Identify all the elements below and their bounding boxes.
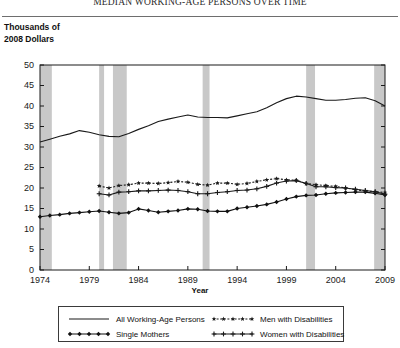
legend-item-men-with-disabilities: Men with Disabilities [211, 314, 332, 324]
y-tick-label: 20 [12, 184, 34, 193]
y-tick-label: 25 [12, 163, 34, 172]
legend-label: Men with Disabilities [260, 315, 332, 324]
x-axis-title: Year [0, 286, 400, 295]
x-tick-label: 1994 [217, 276, 257, 285]
legend-item-all-working-age-persons: All Working-Age Persons [67, 314, 205, 324]
y-tick-label: 10 [12, 225, 34, 234]
y-tick-label: 0 [12, 266, 34, 275]
x-tick-label: 1999 [266, 276, 306, 285]
axis-ticks [40, 65, 385, 270]
x-tick-label: 2009 [365, 276, 400, 285]
legend-swatch-star [211, 314, 255, 324]
legend-swatch-line [67, 314, 111, 324]
legend-swatch-plus [211, 329, 255, 339]
axes-frame [40, 65, 385, 270]
y-tick-label: 15 [12, 204, 34, 213]
legend-label: Single Mothers [116, 330, 169, 339]
x-tick-label: 1979 [69, 276, 109, 285]
y-tick-label: 5 [12, 245, 34, 254]
data-series [38, 96, 388, 219]
chart-figure: MEDIAN WORKING-AGE PERSONS OVER TIME Tho… [0, 0, 400, 348]
legend-label: All Working-Age Persons [116, 315, 205, 324]
legend-item-single-mothers: Single Mothers [67, 329, 169, 339]
legend-label: Women with Disabilities [260, 330, 344, 339]
plot-area [0, 0, 400, 300]
recession-bands [40, 65, 385, 270]
y-tick-label: 45 [12, 81, 34, 90]
legend-swatch-diamond [67, 329, 111, 339]
chart-legend: All Working-Age Persons Single Mothers M… [58, 306, 344, 342]
x-tick-label: 1974 [20, 276, 60, 285]
x-tick-label: 1984 [119, 276, 159, 285]
y-tick-label: 40 [12, 102, 34, 111]
y-tick-label: 30 [12, 143, 34, 152]
x-tick-label: 1989 [168, 276, 208, 285]
x-tick-label: 2004 [316, 276, 356, 285]
legend-item-women-with-disabilities: Women with Disabilities [211, 329, 344, 339]
y-tick-label: 50 [12, 61, 34, 70]
y-tick-label: 35 [12, 122, 34, 131]
